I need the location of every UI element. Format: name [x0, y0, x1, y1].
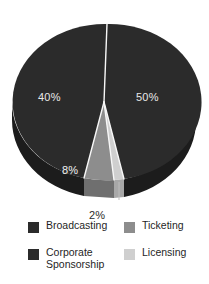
chart-legend: Broadcasting Ticketing Corporate Sponsor… [0, 220, 209, 280]
legend-item-licensing[interactable]: Licensing [124, 247, 209, 274]
legend-label-licensing: Licensing [142, 247, 186, 259]
pie-chart-figure: 50% 40% 8% 2% Broadcasting Ticketing Cor… [0, 0, 209, 284]
pie-chart-svg [0, 6, 209, 206]
slice-side-ticketing [84, 178, 114, 198]
legend-label-corporate-sponsorship: Corporate Sponsorship [46, 247, 104, 270]
legend-item-corporate-sponsorship[interactable]: Corporate Sponsorship [28, 247, 124, 274]
slice-value-ticketing: 8% [62, 164, 78, 176]
legend-label-ticketing: Ticketing [142, 220, 184, 232]
slice-value-broadcasting: 50% [136, 91, 159, 103]
slice-value-corporate-sponsorship: 40% [38, 91, 61, 103]
legend-swatch-ticketing [124, 222, 135, 233]
legend-label-broadcasting: Broadcasting [46, 220, 107, 232]
legend-swatch-licensing [124, 249, 135, 260]
legend-swatch-broadcasting [28, 222, 39, 233]
legend-item-broadcasting[interactable]: Broadcasting [28, 220, 124, 247]
legend-item-ticketing[interactable]: Ticketing [124, 220, 209, 247]
pie-chart-plot: 50% 40% 8% 2% [0, 6, 209, 206]
legend-swatch-corporate-sponsorship [28, 249, 39, 260]
